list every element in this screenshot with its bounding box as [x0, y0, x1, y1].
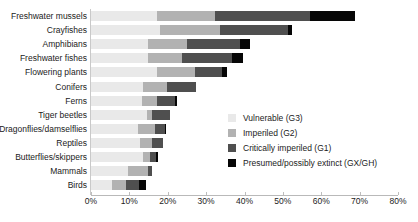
stacked-bar — [91, 166, 152, 176]
legend-swatch-icon — [228, 129, 236, 137]
x-tick-mark — [321, 192, 322, 195]
category-label: Amphibians — [43, 39, 87, 49]
category-label: Tiger beetles — [38, 110, 87, 120]
bar-segment — [167, 82, 196, 92]
legend-item: Critically imperiled (G1) — [228, 140, 414, 155]
bar-segment — [156, 152, 158, 162]
x-tick-mark — [283, 192, 284, 195]
x-tick-label: 80% — [389, 196, 406, 207]
bar-segment — [232, 53, 243, 63]
legend-label: Critically imperiled (G1) — [243, 143, 331, 153]
category-label: Freshwater fishes — [20, 53, 87, 63]
bar-segment — [91, 53, 148, 63]
bar-segment — [148, 53, 182, 63]
bar-segment — [182, 53, 232, 63]
bar-segment — [91, 166, 128, 176]
stacked-bar — [91, 67, 227, 77]
bar-segment — [222, 67, 227, 77]
bar-segment — [112, 180, 126, 190]
stacked-bar — [91, 138, 163, 148]
x-tick-label: 40% — [236, 196, 253, 207]
legend-swatch-icon — [228, 114, 236, 122]
bar-segment — [157, 11, 215, 21]
category-label: Butterflies/skippers — [15, 152, 87, 162]
x-tick-label: 10% — [121, 196, 138, 207]
stacked-bar — [91, 180, 146, 190]
bar-segment — [143, 152, 150, 162]
bar-segment — [91, 39, 148, 49]
stacked-bar — [91, 82, 196, 92]
category-label: Ferns — [65, 96, 87, 106]
category-label: Birds — [68, 180, 87, 190]
bar-segment — [91, 138, 140, 148]
stacked-bar — [91, 25, 292, 35]
bar-segment — [91, 67, 157, 77]
bar-segment — [91, 11, 157, 21]
x-tick-mark — [245, 192, 246, 195]
bar-segment — [138, 124, 155, 134]
x-tick-label: 30% — [198, 196, 215, 207]
bar-segment — [91, 96, 142, 106]
category-label: Dragonflies/damselflies — [0, 124, 87, 134]
x-tick-mark — [91, 192, 92, 195]
x-tick-mark — [129, 192, 130, 195]
legend-label: Vulnerable (G3) — [243, 113, 303, 123]
x-tick-mark — [206, 192, 207, 195]
bar-segment — [152, 110, 170, 120]
chart-legend: Vulnerable (G3)Imperiled (G2)Critically … — [228, 110, 414, 170]
category-label: Mammals — [50, 166, 87, 176]
bar-segment — [126, 180, 139, 190]
bar-segment — [139, 180, 146, 190]
legend-swatch-icon — [228, 144, 236, 152]
category-label: Reptiles — [56, 138, 87, 148]
stacked-bar — [91, 11, 355, 21]
bar-segment — [187, 39, 240, 49]
x-tick-label: 0% — [85, 196, 97, 207]
legend-label: Presumed/possibly extinct (GX/GH) — [243, 158, 377, 168]
bar-segment — [128, 166, 148, 176]
x-tick-mark — [398, 192, 399, 195]
legend-item: Imperiled (G2) — [228, 125, 414, 140]
bar-segment — [142, 96, 157, 106]
stacked-bar — [91, 110, 170, 120]
bar-segment — [91, 110, 147, 120]
category-label: Crayfishes — [47, 25, 87, 35]
bar-segment — [288, 25, 292, 35]
bar-segment — [310, 11, 355, 21]
stacked-bar — [91, 53, 243, 63]
stacked-bar-chart: Freshwater musselsCrayfishesAmphibiansFr… — [0, 0, 418, 222]
stacked-bar — [91, 124, 166, 134]
stacked-bar — [91, 96, 177, 106]
category-label: Conifers — [55, 82, 87, 92]
bar-segment — [240, 39, 250, 49]
x-tick-label: 70% — [351, 196, 368, 207]
bar-segment — [195, 67, 222, 77]
stacked-bar — [91, 39, 250, 49]
bar-segment — [157, 67, 195, 77]
bar-segment — [91, 180, 112, 190]
bar-segment — [220, 25, 288, 35]
legend-item: Presumed/possibly extinct (GX/GH) — [228, 155, 414, 170]
bar-segment — [91, 152, 143, 162]
bar-segment — [215, 11, 310, 21]
bar-segment — [140, 138, 152, 148]
stacked-bar — [91, 152, 158, 162]
x-tick-label: 50% — [274, 196, 291, 207]
bar-segment — [148, 39, 187, 49]
x-tick-label: 60% — [313, 196, 330, 207]
category-label: Freshwater mussels — [11, 11, 87, 21]
bar-segment — [175, 96, 177, 106]
bar-segment — [143, 82, 167, 92]
bar-segment — [155, 124, 165, 134]
bar-segment — [148, 166, 152, 176]
x-tick-mark — [360, 192, 361, 195]
bar-segment — [160, 25, 220, 35]
bar-segment — [165, 124, 166, 134]
bar-segment — [91, 82, 143, 92]
bar-segment — [91, 124, 138, 134]
legend-label: Imperiled (G2) — [243, 128, 297, 138]
bar-segment — [91, 25, 160, 35]
x-tick-label: 20% — [159, 196, 176, 207]
legend-swatch-icon — [228, 159, 236, 167]
category-label: Flowering plants — [25, 67, 87, 77]
